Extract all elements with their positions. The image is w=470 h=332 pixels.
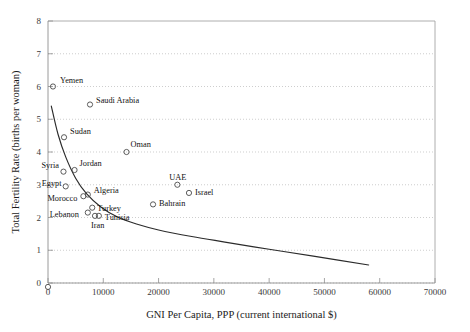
data-point-label: Tunisia — [105, 213, 130, 222]
data-point-marker[interactable] — [61, 169, 66, 174]
y-tick-label: 1 — [37, 245, 42, 255]
data-point-label: Israel — [195, 188, 214, 197]
data-point-label: Iran — [91, 221, 105, 230]
data-point-label: Lebanon — [50, 210, 80, 219]
data-point-label: Oman — [131, 140, 152, 149]
data-point-label: Turkey — [97, 204, 122, 213]
data-point-label: Saudi Arabia — [96, 96, 139, 105]
data-point-label: Algeria — [94, 186, 119, 195]
y-tick-label: 8 — [37, 16, 42, 26]
data-point-label: Syria — [41, 161, 59, 170]
data-point-label: Morocco — [47, 194, 77, 203]
data-point-marker[interactable] — [81, 194, 86, 199]
y-tick-label: 4 — [37, 147, 42, 157]
data-points-group: YemenSaudi ArabiaSudanOmanSyriaJordanEgy… — [41, 76, 214, 290]
y-axis-title: Total Fertility Rate (births per woman) — [10, 70, 22, 233]
data-point-marker[interactable] — [63, 184, 68, 189]
scatter-plot: 0123456780100002000030000400005000060000… — [0, 0, 470, 332]
data-point-marker[interactable] — [90, 205, 95, 210]
plot-frame — [48, 21, 435, 283]
y-tick-label: 2 — [37, 213, 42, 223]
x-tick-label: 10000 — [92, 287, 115, 297]
data-point-label: Bahrain — [159, 199, 186, 208]
x-tick-label: 40000 — [258, 287, 281, 297]
y-tick-label: 5 — [37, 114, 42, 124]
x-tick-label: 30000 — [203, 287, 226, 297]
data-point-label: Egypt — [42, 179, 63, 188]
x-tick-label: 20000 — [147, 287, 170, 297]
data-point-marker[interactable] — [61, 135, 66, 140]
data-point-marker[interactable] — [186, 190, 191, 195]
data-point-marker[interactable] — [87, 102, 92, 107]
data-point-marker[interactable] — [96, 213, 101, 218]
y-tick-label: 0 — [37, 278, 42, 288]
gridlines-group — [48, 54, 435, 283]
x-tick-label: 60000 — [368, 287, 391, 297]
x-tick-label: 70000 — [424, 287, 447, 297]
chart-container: 0123456780100002000030000400005000060000… — [0, 0, 470, 332]
y-tick-label: 6 — [37, 82, 42, 92]
x-tick-label: 50000 — [313, 287, 336, 297]
data-point-label: Jordan — [80, 159, 103, 168]
data-point-label: UAE — [169, 173, 186, 182]
data-point-label: Yemen — [60, 76, 84, 85]
y-tick-label: 7 — [37, 49, 42, 59]
data-point-marker[interactable] — [72, 167, 77, 172]
data-point-label: Sudan — [70, 127, 92, 136]
x-axis-title: GNI Per Capita, PPP (current internation… — [146, 309, 337, 321]
data-point-marker[interactable] — [150, 202, 155, 207]
axis-tick-labels-group: 0123456780100002000030000400005000060000… — [37, 16, 447, 297]
axis-ticks-group — [48, 21, 435, 283]
data-point-marker[interactable] — [85, 210, 90, 215]
